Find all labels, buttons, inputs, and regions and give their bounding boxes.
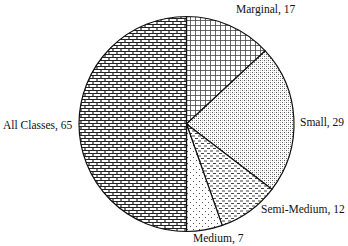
slice-all-classes xyxy=(79,17,187,232)
label-semi-medium: Semi-Medium, 12 xyxy=(261,204,345,216)
label-medium: Medium, 7 xyxy=(193,233,243,245)
label-marginal: Marginal, 17 xyxy=(236,4,295,16)
label-all-classes: All Classes, 65 xyxy=(3,120,72,132)
label-small: Small, 29 xyxy=(300,117,344,129)
